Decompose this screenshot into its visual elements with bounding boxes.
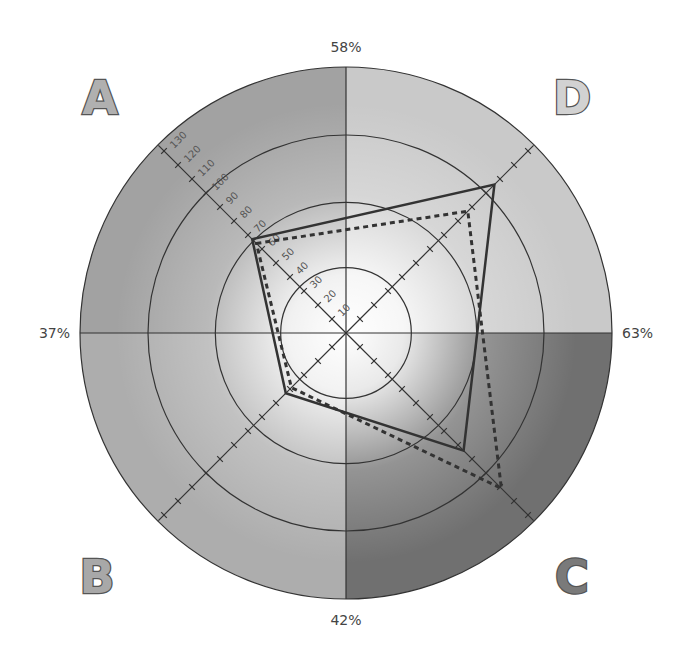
quadrant-letter-d: D <box>553 71 591 125</box>
quadrant-letter-c: C <box>555 550 589 604</box>
percent-label-left: 37% <box>39 325 70 341</box>
percent-label-bottom: 42% <box>330 612 361 628</box>
quadrant-letter-a: A <box>82 71 118 125</box>
radar-chart: 102030405060708090100110120130 58% 37% 6… <box>0 0 691 667</box>
percent-label-right: 63% <box>622 325 653 341</box>
quadrant-letter-b: B <box>79 550 114 604</box>
percent-label-top: 58% <box>330 39 361 55</box>
